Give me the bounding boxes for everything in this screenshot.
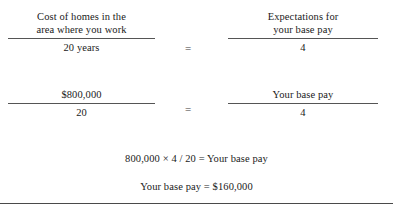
equation-figure: Cost of homes in the area where you work… (0, 0, 393, 214)
fraction-right-1: Expectations for your base pay 4 (228, 10, 378, 54)
denominator-left-1: 20 years (8, 41, 155, 54)
fraction-left-1: Cost of homes in the area where you work… (8, 10, 155, 54)
cross-multiply-line: 800,000 × 4 / 20 = Your base pay (0, 152, 393, 165)
fraction-bar-left-2 (8, 103, 155, 104)
numerator-left-1: Cost of homes in the area where you work (8, 10, 155, 36)
denominator-right-1: 4 (228, 41, 378, 54)
fraction-bar-right-1 (228, 38, 378, 39)
denominator-right-2: 4 (228, 106, 378, 119)
numerator-left-2: $800,000 (8, 88, 155, 101)
bottom-divider (0, 203, 393, 204)
numerator-right-1: Expectations for your base pay (228, 10, 378, 36)
fraction-right-2: Your base pay 4 (228, 88, 378, 119)
fraction-bar-left-1 (8, 38, 155, 39)
denominator-left-2: 20 (8, 106, 155, 119)
fraction-left-2: $800,000 20 (8, 88, 155, 119)
equals-sign-2: = (185, 104, 191, 115)
final-answer-line: Your base pay = $160,000 (0, 180, 393, 193)
numerator-right-2: Your base pay (228, 88, 378, 101)
fraction-bar-right-2 (228, 103, 378, 104)
equals-sign-1: = (185, 43, 191, 54)
